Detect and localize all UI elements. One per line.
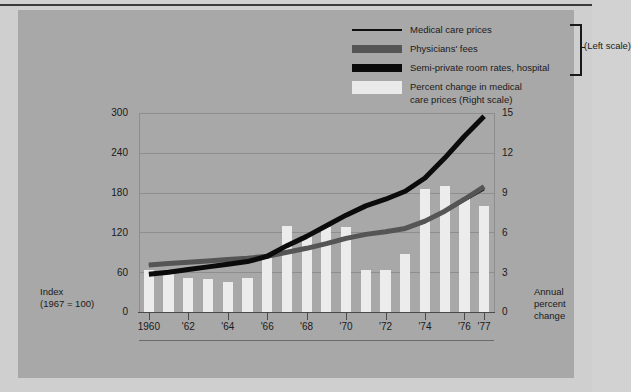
x-axis-label-1962: '62: [168, 322, 208, 332]
x-axis-label-1968: '68: [287, 322, 327, 332]
legend-scale-note: (Left scale): [584, 40, 631, 51]
legend-swatch-white-bar-icon: [352, 81, 402, 94]
right-axis-caption: Annual percent change: [534, 286, 574, 322]
x-axis-label-1964: '64: [208, 322, 248, 332]
y2-axis-tick-15: 15: [502, 108, 526, 118]
x-tick-1960: [149, 312, 150, 320]
x-axis-label-1970: '70: [326, 322, 366, 332]
y-axis-tick-240: 240: [94, 148, 128, 158]
top-rule: [0, 4, 592, 6]
left-axis-caption: Index (1967 = 100): [40, 286, 94, 310]
x-tick-1968: [307, 312, 308, 320]
legend-label-line2: care prices (Right scale): [410, 94, 512, 106]
x-tick-1970: [346, 312, 347, 320]
legend-label: Medical care prices: [410, 24, 492, 36]
y-axis-tick-300: 300: [94, 108, 128, 118]
right-axis-caption-line1: Annual: [534, 286, 574, 298]
legend-brace-icon: [570, 24, 582, 76]
x-axis-label-1966: '66: [247, 322, 287, 332]
y-axis-tick-180: 180: [94, 188, 128, 198]
legend-label: Physicians' fees: [410, 43, 478, 55]
x-tick-1964: [228, 312, 229, 320]
x-axis-label-1974: '74: [405, 322, 445, 332]
y-axis-tick-120: 120: [94, 228, 128, 238]
x-axis-label-1972: '72: [366, 322, 406, 332]
chart-legend: Medical care prices Physicians' fees Sem…: [352, 22, 574, 104]
line-medical-care-prices: [149, 189, 484, 265]
x-tick-1972: [386, 312, 387, 320]
legend-label: Semi-private room rates, hospital: [410, 62, 549, 74]
plot-area: [139, 113, 494, 312]
y2-axis-line: [494, 113, 495, 312]
right-axis-caption-line2: percent change: [534, 298, 574, 322]
legend-swatch-dark-bar-icon: [352, 45, 402, 53]
y2-axis-tick-6: 6: [502, 228, 526, 238]
y-axis-tick-0: 0: [94, 307, 128, 317]
x-tick-1966: [267, 312, 268, 320]
legend-swatch-line-icon: [352, 29, 402, 31]
line-semi-private-room-rates-hospital: [149, 116, 484, 274]
y2-axis-tick-9: 9: [502, 188, 526, 198]
line-series-group: [139, 113, 494, 312]
legend-label: Percent change in medical: [410, 81, 522, 93]
x-axis-line: [138, 312, 495, 313]
chart-panel: Medical care prices Physicians' fees Sem…: [18, 10, 574, 378]
left-axis-caption-line2: (1967 = 100): [40, 298, 94, 310]
y2-axis-tick-12: 12: [502, 148, 526, 158]
x-tick-1976: [464, 312, 465, 320]
y-axis-tick-60: 60: [94, 268, 128, 278]
x-axis-baseline-rule: [139, 340, 494, 341]
y2-axis-tick-3: 3: [502, 268, 526, 278]
y2-axis-tick-0: 0: [502, 307, 526, 317]
x-tick-1974: [425, 312, 426, 320]
left-axis-caption-line1: Index: [40, 286, 94, 298]
line-physicians-fees: [149, 187, 484, 265]
x-tick-1962: [188, 312, 189, 320]
x-axis-label-1977: '77: [464, 322, 504, 332]
x-axis-label-1960: 1960: [129, 322, 169, 332]
x-tick-1977: [484, 312, 485, 320]
legend-swatch-black-bar-icon: [352, 64, 402, 72]
